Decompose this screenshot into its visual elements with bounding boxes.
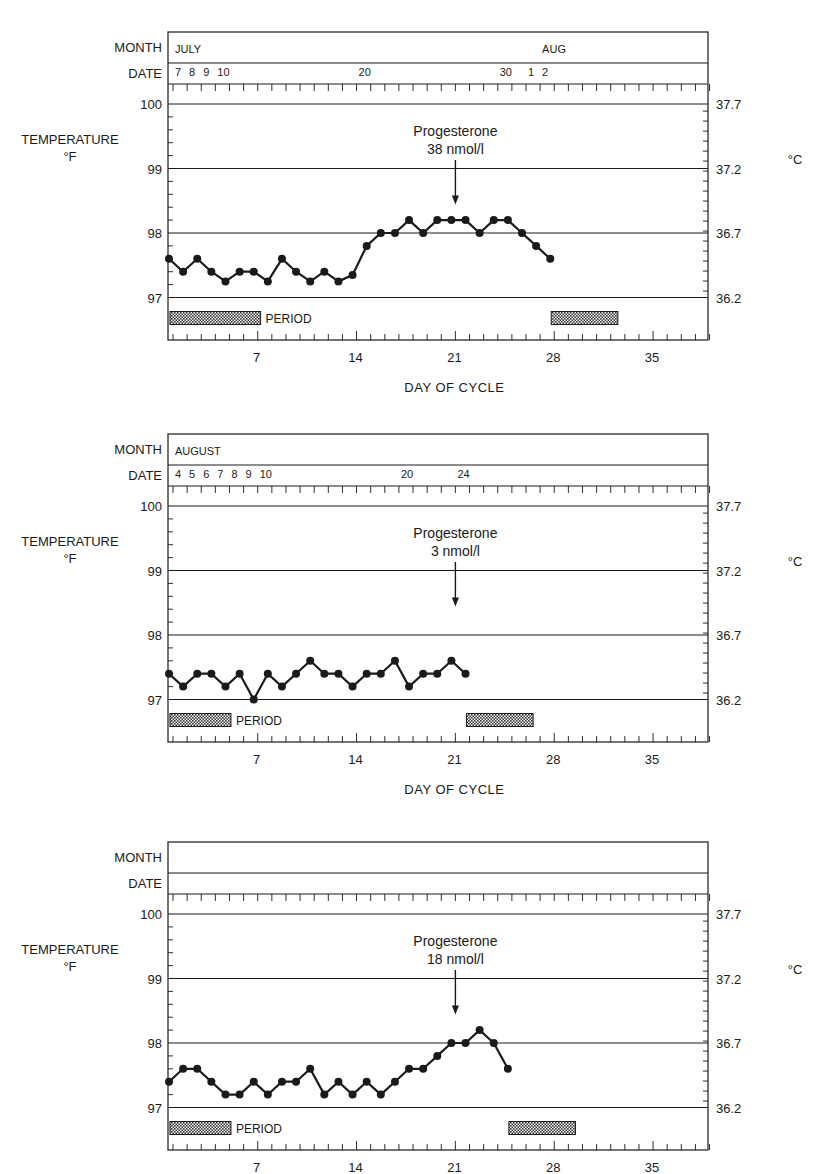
temperature-point: [250, 268, 258, 276]
svg-text:Progesterone: Progesterone: [413, 933, 497, 949]
date-label: 7: [175, 66, 181, 78]
svg-text:DATE: DATE: [128, 876, 162, 891]
svg-text:35: 35: [645, 350, 659, 365]
svg-text:36.7: 36.7: [716, 226, 741, 241]
svg-text:14: 14: [348, 752, 362, 767]
temperature-point: [377, 670, 385, 678]
temperature-point: [306, 657, 314, 665]
temperature-point: [193, 670, 201, 678]
svg-text:36.7: 36.7: [716, 1036, 741, 1051]
temperature-point: [433, 1052, 441, 1060]
temperature-point: [419, 1065, 427, 1073]
temperature-point: [320, 1091, 328, 1099]
temperature-point: [504, 1065, 512, 1073]
temperature-point: [462, 670, 470, 678]
temperature-point: [236, 670, 244, 678]
date-label: 10: [217, 66, 229, 78]
temperature-point: [320, 670, 328, 678]
svg-text:97: 97: [148, 291, 162, 306]
svg-text:°F: °F: [63, 551, 76, 566]
svg-text:DATE: DATE: [128, 468, 162, 483]
date-label: 30: [500, 66, 512, 78]
temperature-point: [349, 683, 357, 691]
temperature-point: [306, 1065, 314, 1073]
temperature-point: [165, 670, 173, 678]
svg-text:14: 14: [348, 1160, 362, 1174]
temperature-point: [490, 1039, 498, 1047]
svg-text:100: 100: [140, 499, 162, 514]
month-label: AUGUST: [175, 445, 221, 457]
svg-text:35: 35: [645, 752, 659, 767]
svg-text:21: 21: [447, 1160, 461, 1174]
temperature-point: [179, 683, 187, 691]
svg-text:35: 35: [645, 1160, 659, 1174]
svg-text:36.2: 36.2: [716, 693, 741, 708]
temperature-point: [476, 1026, 484, 1034]
temperature-point: [306, 277, 314, 285]
svg-text:37.7: 37.7: [716, 499, 741, 514]
temperature-point: [546, 255, 554, 263]
svg-text:37.2: 37.2: [716, 972, 741, 987]
date-label: 8: [189, 66, 195, 78]
svg-text:36.2: 36.2: [716, 291, 741, 306]
temperature-point: [405, 683, 413, 691]
date-label: 9: [203, 66, 209, 78]
chart-svg: MONTHDATETEMPERATURE°F°CJULYAUG789102030…: [0, 30, 824, 410]
svg-text:PERIOD: PERIOD: [236, 1122, 282, 1136]
bbt-chart-1: MONTHDATETEMPERATURE°F°CJULYAUG789102030…: [0, 30, 824, 414]
svg-text:37.7: 37.7: [716, 97, 741, 112]
date-label: 24: [457, 468, 469, 480]
temperature-point: [264, 1091, 272, 1099]
temperature-point: [419, 229, 427, 237]
temperature-point: [391, 229, 399, 237]
svg-text:°F: °F: [63, 149, 76, 164]
temperature-point: [264, 670, 272, 678]
svg-text:38 nmol/l: 38 nmol/l: [427, 141, 484, 157]
temperature-point: [278, 683, 286, 691]
temperature-point: [504, 216, 512, 224]
temperature-point: [349, 1091, 357, 1099]
temperature-point: [391, 657, 399, 665]
svg-text:28: 28: [546, 350, 560, 365]
period-bar: [170, 714, 231, 727]
svg-text:99: 99: [148, 564, 162, 579]
temperature-point: [193, 1065, 201, 1073]
temperature-line: [169, 220, 550, 281]
temperature-point: [363, 1078, 371, 1086]
date-label: 20: [401, 468, 413, 480]
svg-text:TEMPERATURE: TEMPERATURE: [21, 132, 119, 147]
temperature-point: [236, 1091, 244, 1099]
svg-text:37.2: 37.2: [716, 162, 741, 177]
date-label: 20: [359, 66, 371, 78]
svg-text:97: 97: [148, 1101, 162, 1116]
temperature-point: [447, 216, 455, 224]
date-label: 2: [542, 66, 548, 78]
svg-text:Progesterone: Progesterone: [413, 123, 497, 139]
date-label: 4: [175, 468, 181, 480]
svg-text:97: 97: [148, 693, 162, 708]
svg-text:100: 100: [140, 97, 162, 112]
chart-svg: MONTHDATETEMPERATURE°F°CAUGUST4567891020…: [0, 432, 824, 812]
temperature-point: [264, 277, 272, 285]
temperature-point: [419, 670, 427, 678]
temperature-point: [447, 657, 455, 665]
svg-text:14: 14: [348, 350, 362, 365]
svg-text:21: 21: [447, 752, 461, 767]
svg-text:98: 98: [148, 1036, 162, 1051]
svg-text:°C: °C: [788, 554, 803, 569]
temperature-point: [221, 277, 229, 285]
svg-text:DAY OF CYCLE: DAY OF CYCLE: [404, 782, 504, 797]
svg-text:7: 7: [253, 350, 260, 365]
temperature-point: [334, 1078, 342, 1086]
temperature-point: [462, 216, 470, 224]
temperature-point: [292, 670, 300, 678]
temperature-point: [207, 268, 215, 276]
temperature-point: [250, 696, 258, 704]
temperature-point: [377, 229, 385, 237]
date-label: 5: [189, 468, 195, 480]
temperature-point: [334, 277, 342, 285]
chart-svg: MONTHDATETEMPERATURE°F°C9736.29836.79937…: [0, 840, 824, 1174]
temperature-point: [207, 1078, 215, 1086]
temperature-point: [292, 268, 300, 276]
svg-text:18 nmol/l: 18 nmol/l: [427, 951, 484, 967]
